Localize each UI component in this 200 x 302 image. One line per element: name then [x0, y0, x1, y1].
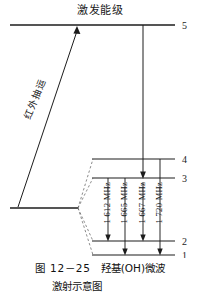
frequency-label-1665: 1 665 MHz [120, 182, 129, 223]
split-dash-to-1 [78, 208, 93, 255]
frequency-label-1720: 1 720 MHz [155, 182, 164, 223]
caption-figure-number: 图 12－25 [35, 262, 91, 274]
figure-caption: 图 12－25 羟基(OH)微波 激射示意图 [0, 259, 200, 295]
split-dash-to-3 [78, 178, 93, 208]
figure-container: 激发能级 5 4 [0, 0, 200, 302]
split-dash-to-4 [78, 159, 93, 208]
pump-arrow-line [18, 31, 77, 207]
level-number-4: 4 [182, 154, 187, 165]
frequency-label-1667: 1 667 MHz [138, 182, 147, 223]
caption-line-2: 激射示意图 [0, 277, 200, 295]
level-number-2: 2 [182, 236, 187, 247]
caption-line-1: 图 12－25 羟基(OH)微波 [0, 259, 200, 277]
frequency-label-1612: 1 612 MHz [103, 182, 112, 223]
split-dash-to-2 [78, 208, 93, 241]
energy-level-diagram: 5 4 3 2 1 [0, 0, 200, 258]
level-number-5: 5 [182, 20, 187, 31]
level-number-1: 1 [182, 250, 187, 258]
caption-title-part1: 羟基(OH)微波 [101, 262, 165, 274]
pump-arrow-head [73, 26, 80, 34]
level-number-3: 3 [182, 173, 187, 184]
